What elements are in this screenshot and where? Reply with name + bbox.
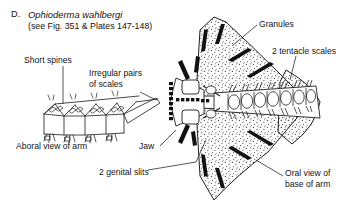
- leader-genital-slits: [148, 140, 206, 170]
- leader-lines-left: [63, 66, 156, 104]
- oral-shield-upper: [182, 80, 199, 94]
- leader-jaw: [160, 130, 176, 146]
- aboral-arm-drawing: [44, 91, 160, 143]
- oral-view-drawing: [169, 17, 320, 200]
- leader-irregular-pairs: [140, 92, 156, 100]
- figure-artwork: [0, 0, 362, 223]
- figure-panel: D. Ophioderma wahlbergi (see Fig. 351 & …: [0, 0, 362, 223]
- leader-oral-view: [256, 160, 283, 176]
- oral-shield-lower: [182, 110, 199, 124]
